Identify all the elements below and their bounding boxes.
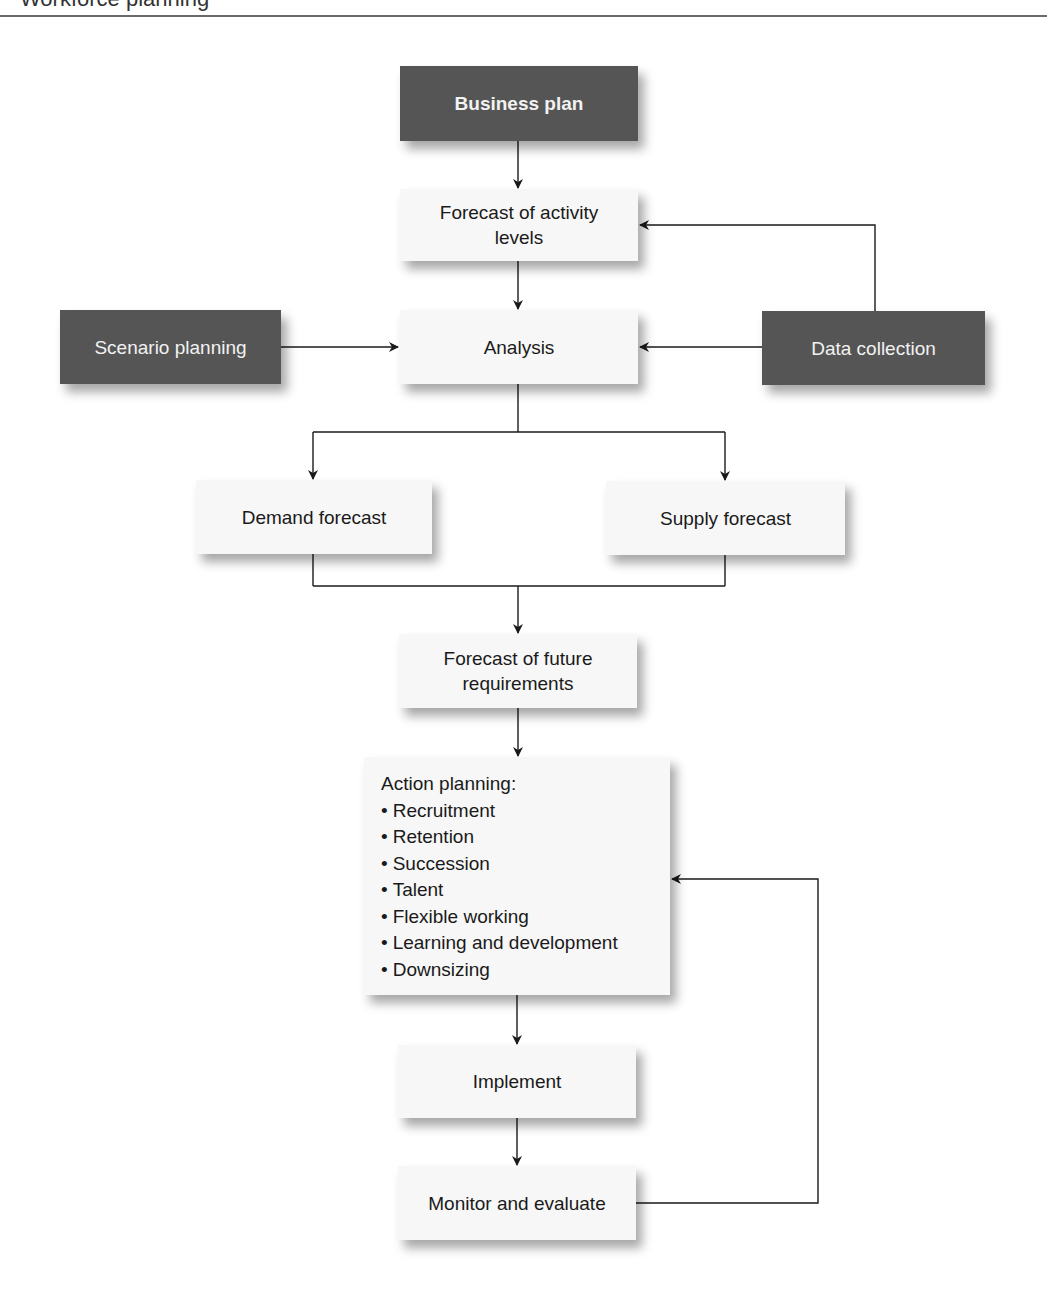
list-item: Recruitment: [381, 798, 670, 825]
node-supply-forecast: Supply forecast: [606, 481, 845, 555]
list-item: Succession: [381, 851, 670, 878]
node-business-plan: Business plan: [400, 66, 638, 141]
node-label: Scenario planning: [94, 335, 246, 360]
node-label: Forecast of future requirements: [421, 646, 615, 696]
node-analysis: Analysis: [400, 310, 638, 384]
action-planning-title: Action planning:: [381, 771, 670, 798]
list-item: Learning and development: [381, 930, 670, 957]
node-action-planning: Action planning: Recruitment Retention S…: [364, 757, 670, 995]
node-label: Supply forecast: [660, 506, 791, 531]
node-demand-forecast: Demand forecast: [196, 480, 432, 554]
node-implement: Implement: [398, 1045, 636, 1118]
node-forecast-activity: Forecast of activity levels: [400, 189, 638, 261]
edge-data-to-forecast: [640, 225, 875, 311]
list-item: Retention: [381, 824, 670, 851]
node-label: Forecast of activity levels: [428, 200, 610, 250]
node-scenario-planning: Scenario planning: [60, 310, 281, 384]
node-label: Analysis: [484, 335, 555, 360]
list-item: Downsizing: [381, 957, 670, 984]
list-item: Talent: [381, 877, 670, 904]
node-label: Demand forecast: [242, 505, 387, 530]
list-item: Flexible working: [381, 904, 670, 931]
node-label: Implement: [473, 1069, 562, 1094]
node-data-collection: Data collection: [762, 311, 985, 385]
node-monitor-evaluate: Monitor and evaluate: [398, 1166, 636, 1240]
action-planning-list: Recruitment Retention Succession Talent …: [381, 798, 670, 984]
node-label: Monitor and evaluate: [428, 1191, 605, 1216]
node-forecast-future: Forecast of future requirements: [399, 634, 637, 708]
node-label: Business plan: [455, 91, 584, 116]
node-label: Data collection: [811, 336, 936, 361]
